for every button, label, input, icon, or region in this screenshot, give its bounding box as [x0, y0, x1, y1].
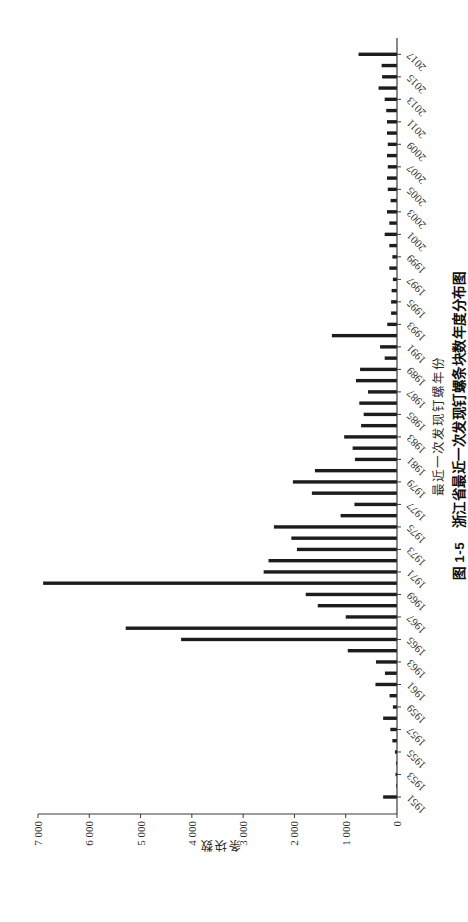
x-tick-label: 1987 — [404, 387, 428, 411]
bar-2015 — [382, 75, 397, 78]
x-tick-label: 1957 — [404, 725, 428, 749]
bar-1979 — [293, 480, 397, 483]
bar-2005 — [388, 188, 397, 191]
bar-2016 — [382, 64, 397, 67]
x-axis-title: 最近一次发现钉螺年份 — [428, 38, 447, 814]
x-tick-label: 1961 — [404, 680, 428, 704]
bar-1964 — [348, 649, 397, 652]
bar-1969 — [306, 593, 397, 596]
y-tick-label: 5 000 — [135, 821, 147, 846]
bar-1992 — [332, 334, 397, 337]
bar-1985 — [364, 413, 397, 416]
x-tick-label: 1965 — [404, 635, 428, 659]
bar-1987 — [368, 390, 397, 393]
bar-2013 — [385, 98, 397, 101]
x-tick-label: 1979 — [404, 477, 428, 501]
bar-1967 — [346, 615, 397, 618]
x-tick-label: 2011 — [404, 117, 428, 141]
figure-caption: 图 1-5 浙江省最近一次发现钉螺条块数年度分布图 — [448, 38, 468, 814]
x-tick-label: 1971 — [404, 568, 428, 592]
x-tick-label: 1973 — [404, 545, 428, 569]
bar-1999 — [392, 255, 397, 258]
bar-1970 — [43, 581, 397, 584]
x-tick-label: 1993 — [404, 320, 428, 344]
bar-1980 — [315, 469, 397, 472]
x-tick-label: 1953 — [404, 770, 428, 794]
bar-1998 — [389, 266, 397, 269]
x-tick-label: 2009 — [404, 140, 428, 164]
bar-2014 — [379, 86, 397, 89]
x-tick-label: 1967 — [404, 612, 428, 636]
bar-2012 — [386, 109, 397, 112]
x-tick-label: 2001 — [404, 230, 428, 254]
bar-1951 — [383, 795, 397, 798]
bar-1958 — [383, 717, 397, 720]
x-tick-label: 1951 — [404, 793, 428, 817]
bar-2007 — [388, 165, 397, 168]
x-tick-label: 2013 — [404, 95, 428, 119]
x-tick-label: 1995 — [404, 297, 428, 321]
x-tick-label: 1955 — [404, 747, 428, 771]
bar-1984 — [361, 424, 397, 427]
bar-1962 — [385, 672, 397, 675]
bar-1993 — [387, 323, 397, 326]
bar-2006 — [387, 176, 397, 179]
bar-1995 — [391, 300, 397, 303]
bar-1959 — [393, 705, 397, 708]
x-tick-label: 1981 — [404, 455, 428, 479]
bar-1990 — [385, 356, 397, 359]
x-tick-label: 1969 — [404, 590, 428, 614]
rotated-chart-container: 01 0002 0003 0004 0005 0006 0007 0001951… — [0, 30, 462, 860]
x-tick-label: 1977 — [404, 500, 428, 524]
x-tick-label: 1991 — [404, 342, 428, 366]
y-tick-label: 7 000 — [32, 821, 44, 846]
bar-1978 — [312, 491, 397, 494]
bar-1963 — [376, 660, 397, 663]
bar-chart-canvas: 01 0002 0003 0004 0005 0006 0007 0001951… — [0, 30, 462, 860]
bar-1972 — [269, 559, 397, 562]
x-tick-label: 2017 — [404, 50, 428, 74]
bar-1981 — [355, 458, 397, 461]
bar-1975 — [274, 525, 397, 528]
y-tick-label: 0 — [391, 821, 403, 827]
y-axis-title: 条块数 — [180, 837, 260, 856]
bar-1966 — [126, 627, 397, 630]
y-tick-label: 6 000 — [83, 821, 95, 846]
bar-1961 — [375, 683, 397, 686]
bar-1971 — [264, 570, 397, 573]
bar-2009 — [388, 143, 397, 146]
bar-2001 — [385, 233, 397, 236]
bar-2011 — [387, 120, 397, 123]
x-tick-label: 1963 — [404, 657, 428, 681]
x-tick-label: 1975 — [404, 522, 428, 546]
x-tick-label: 1997 — [404, 275, 428, 299]
bar-2010 — [387, 131, 397, 134]
bar-1983 — [344, 435, 397, 438]
bar-1968 — [318, 604, 397, 607]
y-tick-label: 1 000 — [340, 821, 352, 846]
x-tick-label: 1999 — [404, 252, 428, 276]
bar-2000 — [389, 244, 397, 247]
bar-1956 — [392, 739, 397, 742]
bar-1982 — [353, 446, 397, 449]
x-tick-label: 2005 — [404, 185, 428, 209]
bar-1988 — [356, 379, 397, 382]
bar-1989 — [360, 368, 397, 371]
bar-2008 — [387, 154, 397, 157]
x-tick-label: 1985 — [404, 410, 428, 434]
y-tick-label: 2 000 — [288, 821, 300, 846]
bar-1976 — [341, 514, 397, 517]
x-tick-label: 2007 — [404, 162, 428, 186]
bar-2002 — [389, 221, 397, 224]
x-tick-label: 2015 — [404, 72, 428, 96]
bar-1977 — [354, 503, 397, 506]
bar-1965 — [181, 638, 397, 641]
bar-1986 — [359, 401, 397, 404]
x-tick-label: 1983 — [404, 432, 428, 456]
bar-1973 — [297, 548, 397, 551]
bar-1960 — [390, 694, 397, 697]
x-tick-label: 2003 — [404, 207, 428, 231]
bar-1997 — [393, 278, 397, 281]
bar-2017 — [359, 53, 397, 56]
